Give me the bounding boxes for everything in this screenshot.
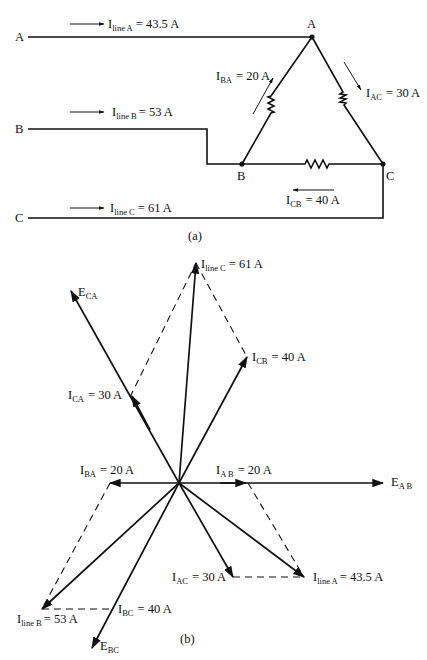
phasor-i-bc-label: IBC= 40 A bbox=[118, 602, 172, 618]
phasor-e-bc-label: EBC bbox=[100, 639, 119, 655]
dash-ica-to-linec bbox=[130, 263, 196, 397]
e-ca-vector bbox=[71, 291, 179, 483]
phasor-i-ac-label: IAC= 30 A bbox=[172, 570, 226, 586]
i-line-c-vector bbox=[179, 263, 196, 483]
line-b-wire bbox=[28, 129, 242, 164]
phasor-line-a-label: Iline A= 43.5 A bbox=[313, 570, 383, 586]
phasor-e-ab-label: EA B bbox=[391, 475, 412, 491]
line-b-current-label: Iline B= 53 A bbox=[112, 105, 173, 121]
dash-iab-to-linea bbox=[248, 483, 304, 577]
phasor-i-ba-label: IBA= 20 A bbox=[80, 463, 134, 479]
terminal-c-label: C bbox=[15, 211, 23, 225]
line-a-current-label: Iline A= 43.5 A bbox=[108, 17, 179, 33]
i-line-a-vector bbox=[179, 483, 304, 577]
node-b-dot bbox=[239, 161, 244, 166]
phasor-e-ca-label: ECA bbox=[78, 285, 98, 301]
i-cb-label: ICB= 40 A bbox=[286, 193, 340, 209]
line-c-current-label: Iline C= 61 A bbox=[110, 201, 172, 217]
phasor-line-b-label: Iline B= 53 A bbox=[17, 612, 78, 628]
i-ac-label: IAC= 30 A bbox=[366, 86, 420, 102]
dash-iba-to-lineb bbox=[42, 483, 110, 609]
phasor-i-ab-label: IA B= 20 A bbox=[216, 463, 272, 479]
node-a-dot bbox=[309, 34, 314, 39]
caption-b: (b) bbox=[180, 632, 195, 646]
node-b-label: B bbox=[237, 169, 245, 183]
phasor-i-ca-label: ICA= 30 A bbox=[68, 388, 122, 404]
node-a-label: A bbox=[307, 17, 316, 31]
i-ba-label: IBA= 20 A bbox=[216, 69, 270, 85]
phasor-line-c-label: Iline C= 61 A bbox=[201, 257, 263, 273]
node-c-dot bbox=[380, 161, 385, 166]
terminal-b-label: B bbox=[15, 122, 23, 136]
resistor-cb bbox=[242, 160, 383, 168]
i-ca-vector bbox=[132, 396, 150, 430]
phasor-diagram: Iline C= 61 A ECA ICA= 30 A ICB= 40 A IB… bbox=[17, 257, 412, 655]
line-c-wire bbox=[28, 164, 383, 218]
delta-circuit: A B C A B C Iline A= 43.5 A Iline B= 53 … bbox=[15, 17, 420, 243]
resistor-ba bbox=[242, 37, 312, 164]
diagram-canvas: A B C A B C Iline A= 43.5 A Iline B= 53 … bbox=[0, 0, 427, 660]
phasor-i-cb-label: ICB= 40 A bbox=[252, 350, 306, 366]
i-ac-arrow-icon bbox=[344, 62, 361, 90]
i-ac-vector bbox=[179, 483, 233, 577]
node-c-label: C bbox=[386, 169, 394, 183]
e-bc-vector bbox=[92, 483, 179, 648]
terminal-a-label: A bbox=[15, 30, 24, 44]
caption-a: (a) bbox=[188, 229, 202, 243]
dash-linec-to-icb bbox=[196, 263, 247, 357]
i-line-b-vector bbox=[42, 483, 179, 609]
